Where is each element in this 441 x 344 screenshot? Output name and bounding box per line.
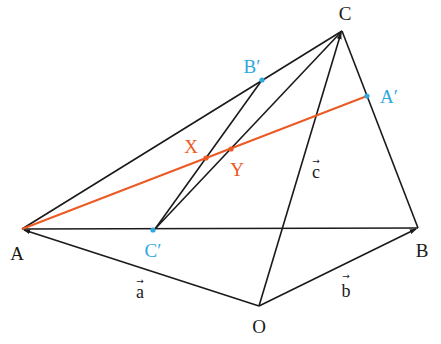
label-vector-b: b (342, 281, 351, 301)
label-Y: Y (230, 159, 244, 180)
diagram-canvas: A B C O A′ B′ C′ X Y a → b → c → (0, 0, 441, 344)
arrow-over-a-icon: → (136, 276, 144, 286)
point-X (203, 155, 208, 160)
point-Y (228, 146, 233, 151)
edge-BC (342, 31, 418, 228)
vector-b-line (259, 229, 416, 306)
point-Cp (150, 227, 155, 232)
label-X: X (184, 136, 198, 157)
label-B: B (416, 240, 429, 261)
label-Ap: A′ (380, 86, 398, 107)
label-O: O (252, 316, 266, 337)
label-C: C (339, 3, 352, 24)
label-A: A (10, 243, 24, 264)
label-Bp: B′ (244, 56, 261, 77)
segment-Cp-Bp (155, 80, 262, 229)
point-Ap (364, 93, 369, 98)
edge-AB (22, 228, 418, 229)
label-Cp: C′ (145, 240, 162, 261)
arrow-over-c-icon: → (312, 156, 320, 166)
arrow-over-b-icon: → (342, 271, 350, 281)
point-Bp (259, 77, 264, 82)
vector-diagram: A B C O A′ B′ C′ X Y a → b → c → (0, 0, 441, 344)
